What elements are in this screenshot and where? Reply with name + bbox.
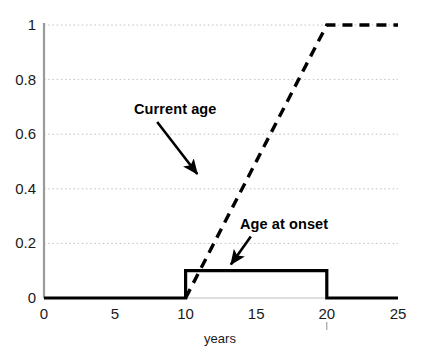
x-tick-label-25: 25 [378, 306, 418, 321]
x-tick-label-10: 10 [166, 306, 206, 321]
x-tick-label-20: 20 [307, 306, 347, 321]
y-tick-label-1: 1 [0, 17, 36, 32]
series-age-at-onset [44, 271, 398, 298]
gridlines [44, 25, 398, 298]
y-tick-label-0.2: 0.2 [0, 235, 36, 250]
age-at-onset-arrow [231, 237, 251, 265]
x-tick-label-0: 0 [24, 306, 64, 321]
current-age-arrow [157, 122, 197, 174]
x-tick-label-5: 5 [95, 306, 135, 321]
x-tick-label-15: 15 [236, 306, 276, 321]
y-tick-label-0.6: 0.6 [0, 126, 36, 141]
series-current-age [186, 25, 398, 298]
y-tick-label-0: 0 [0, 290, 36, 305]
y-tick-label-0.4: 0.4 [0, 181, 36, 196]
x-axis-title: years [175, 332, 265, 345]
y-tick-label-0.8: 0.8 [0, 72, 36, 87]
annotation-age-at-onset: Age at onset [240, 217, 328, 232]
annotation-current-age: Current age [134, 102, 216, 117]
chart-plot-area [0, 0, 423, 358]
chart-container: 1 0.8 0.6 0.4 0.2 0 0 5 10 15 20 25 year… [0, 0, 423, 358]
